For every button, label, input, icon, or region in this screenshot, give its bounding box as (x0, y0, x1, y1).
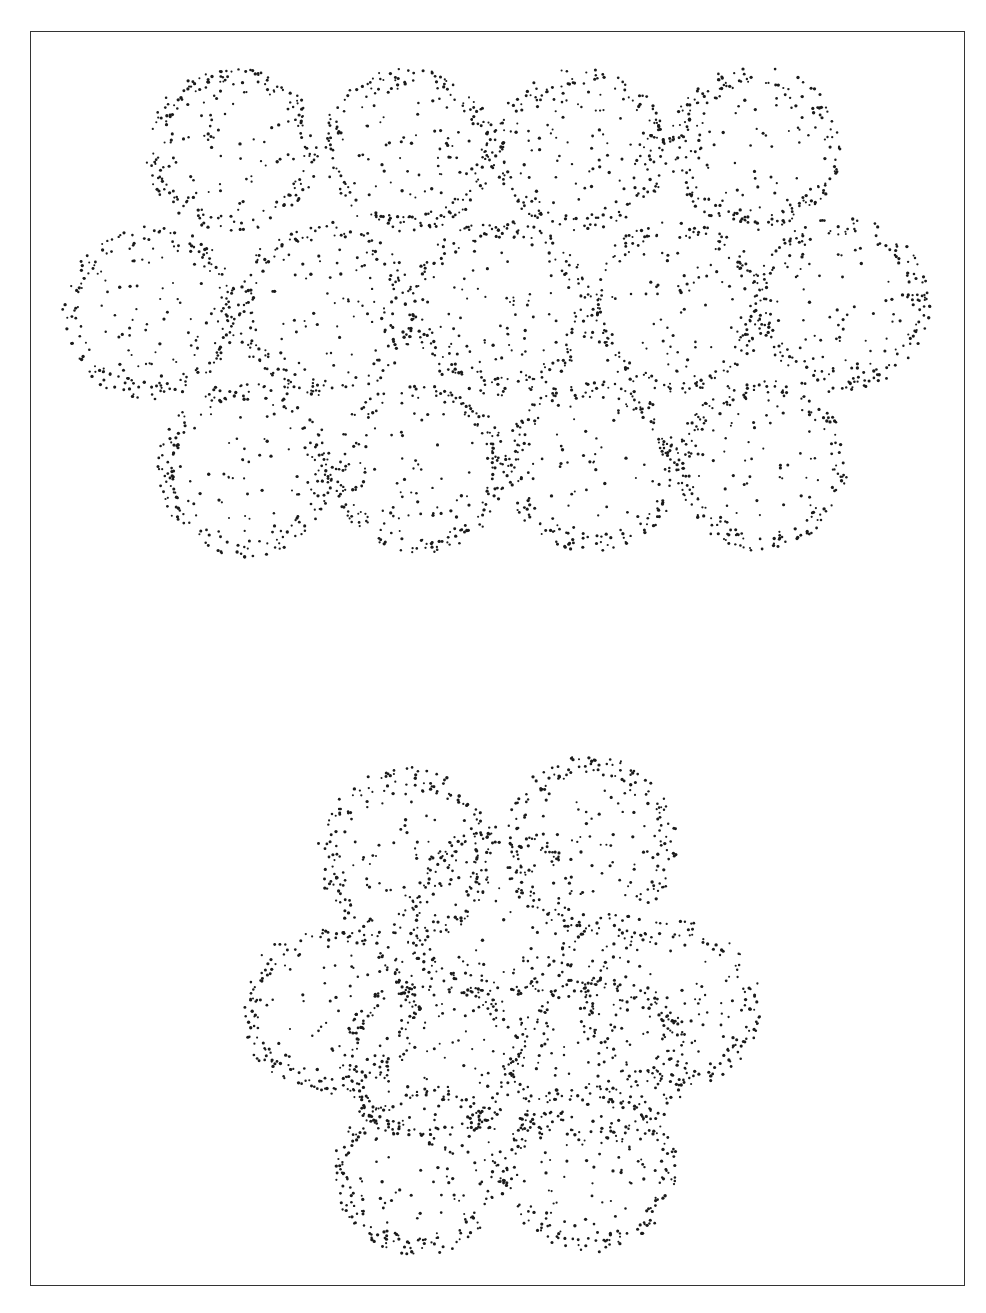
close-packed-cluster (243, 756, 761, 1255)
planar-array-cluster (61, 67, 931, 558)
stipple-sphere-diagram (0, 0, 986, 1313)
